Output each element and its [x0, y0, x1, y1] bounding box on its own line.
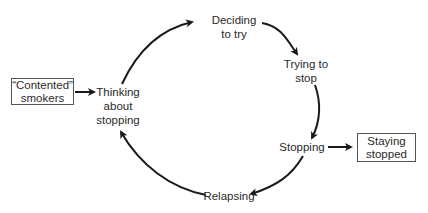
staying-stopped-box: Staying stopped [357, 133, 416, 162]
arrow-trying-to-stopping [312, 85, 319, 138]
deciding-line1: Deciding [212, 13, 257, 27]
node-deciding-to-try: Deciding to try [212, 13, 257, 41]
arrow-deciding-to-trying [262, 23, 297, 54]
trying-line1: Trying to [284, 57, 328, 71]
thinking-line3: stopping [96, 113, 139, 127]
contented-smokers-line1: “Contented” [12, 79, 73, 92]
staying-stopped-line2: stopped [358, 148, 415, 161]
staying-stopped-line1: Staying [358, 135, 415, 148]
node-stopping: Stopping [279, 140, 324, 154]
node-trying-to-stop: Trying to stop [284, 57, 328, 85]
thinking-line1: Thinking [96, 85, 139, 99]
contented-smokers-line2: smokers [12, 92, 73, 105]
arrow-thinking-to-deciding [122, 22, 192, 84]
trying-line2: stop [284, 71, 328, 85]
arrow-relapsing-to-thinking [121, 132, 206, 195]
arrow-stopping-to-relapsing [251, 156, 303, 194]
thinking-line2: about [96, 99, 139, 113]
deciding-line2: to try [212, 27, 257, 41]
stopping-line1: Stopping [279, 140, 324, 154]
node-thinking-about-stopping: Thinking about stopping [96, 85, 139, 127]
node-relapsing: Relapsing [203, 189, 254, 203]
contented-smokers-box: “Contented” smokers [11, 78, 74, 105]
relapsing-line1: Relapsing [203, 189, 254, 203]
